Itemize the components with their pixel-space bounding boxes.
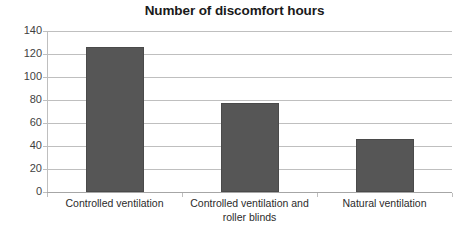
x-axis-category-label: Natural ventilation xyxy=(317,197,452,211)
bar[interactable] xyxy=(356,139,414,192)
bar-chart: Number of discomfort hours 0204060801001… xyxy=(0,0,469,242)
y-axis-tick xyxy=(43,169,47,170)
x-axis-tick xyxy=(452,193,453,197)
y-axis-tick xyxy=(43,146,47,147)
y-axis-tick xyxy=(43,31,47,32)
y-axis-tick-label: 20 xyxy=(2,163,42,174)
x-axis-tick xyxy=(182,193,183,197)
x-axis-tick xyxy=(47,193,48,197)
gridline xyxy=(47,192,452,193)
gridline xyxy=(47,31,452,32)
y-axis-tick-label: 40 xyxy=(2,140,42,151)
y-axis-tick-labels: 020406080100120140 xyxy=(0,0,42,242)
y-axis-tick xyxy=(43,123,47,124)
y-axis-tick-label: 120 xyxy=(2,48,42,59)
y-axis-tick xyxy=(43,77,47,78)
x-axis-tick-labels: Controlled ventilationControlled ventila… xyxy=(47,197,452,241)
y-axis-tick-label: 0 xyxy=(2,186,42,197)
y-axis-tick-label: 60 xyxy=(2,117,42,128)
y-axis-tick xyxy=(43,54,47,55)
chart-title: Number of discomfort hours xyxy=(0,3,469,18)
x-axis-category-label: Controlled ventilation xyxy=(47,197,182,211)
plot-area xyxy=(47,31,452,192)
y-axis-tick-label: 140 xyxy=(2,25,42,36)
bar[interactable] xyxy=(86,47,144,192)
y-axis-tick xyxy=(43,100,47,101)
x-axis-category-label: Controlled ventilation and roller blinds xyxy=(182,197,317,224)
y-axis-tick-label: 80 xyxy=(2,94,42,105)
bar[interactable] xyxy=(221,103,279,192)
x-axis-tick xyxy=(317,193,318,197)
y-axis-tick-label: 100 xyxy=(2,71,42,82)
